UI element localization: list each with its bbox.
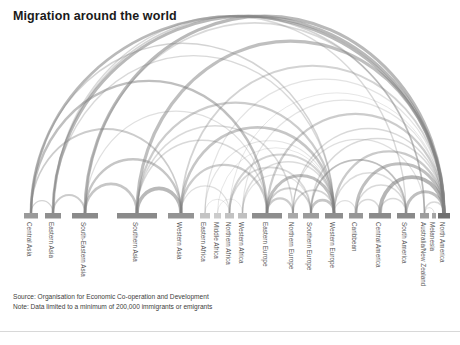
axis-label-region: Central America: [375, 222, 382, 268]
flow-arc: [53, 195, 85, 213]
axis-label-region: Australia/New Zealand: [420, 222, 427, 286]
region-node-bar[interactable]: [252, 213, 282, 219]
flow-arc: [31, 201, 53, 213]
region-node-bar[interactable]: [397, 213, 415, 219]
flow-arc: [311, 200, 334, 213]
region-node-bar[interactable]: [24, 213, 38, 219]
region-node-bar[interactable]: [349, 213, 363, 219]
flow-arc: [356, 200, 380, 213]
flow-arc: [380, 198, 406, 213]
axis-label-region: Eastern Europe: [262, 222, 269, 266]
axis-label-region: Central Asia: [26, 222, 33, 257]
region-node-bar[interactable]: [438, 213, 450, 219]
bottom-divider: [0, 331, 460, 332]
axis-label-region: Eastern Asia: [48, 222, 55, 258]
region-node-bar[interactable]: [214, 213, 221, 219]
flow-arc: [137, 188, 181, 213]
region-node-bar[interactable]: [45, 213, 61, 219]
region-node-bar[interactable]: [369, 213, 391, 219]
axis-label-region: Southern Asia: [132, 222, 139, 262]
region-node-bar[interactable]: [200, 213, 210, 219]
axis-label-region: Northern Africa: [225, 222, 232, 265]
region-node-bar[interactable]: [432, 213, 436, 219]
data-note: Note: Data limited to a minimum of 200,0…: [13, 302, 212, 312]
region-node-bar[interactable]: [238, 213, 247, 219]
footnotes: Source: Organisation for Economic Co-ope…: [13, 292, 212, 312]
axis-label-region: Western Asia: [176, 222, 183, 260]
region-node-bar[interactable]: [72, 213, 98, 219]
axis-label-region: North America: [439, 222, 446, 263]
source-note: Source: Organisation for Economic Co-ope…: [13, 292, 212, 302]
flow-arc: [85, 184, 137, 213]
axis-label-region: Middle Africa: [213, 222, 220, 259]
region-node-bar[interactable]: [168, 213, 194, 219]
axis-label-region: Northern Europe: [288, 222, 295, 269]
axis-label-region: Western Africa: [238, 222, 245, 264]
region-node-bar[interactable]: [420, 213, 429, 219]
arcs-layer: [31, 16, 444, 213]
axis-label-region: Caribbean: [351, 222, 358, 252]
region-node-bar[interactable]: [225, 213, 234, 219]
region-node-bar[interactable]: [325, 213, 343, 219]
axis-label-region: South America: [401, 222, 408, 264]
region-node-bar[interactable]: [303, 213, 319, 219]
axis-label-region: Eastern Africa: [200, 222, 207, 262]
region-node-bar[interactable]: [117, 213, 157, 219]
axis-label-region: Southern Europe: [306, 222, 313, 270]
axis-label-region: South-Eastern Asia: [80, 222, 87, 277]
nodes-layer: [24, 213, 450, 219]
axis-label-region: Melanesia: [429, 222, 436, 251]
axis-label-region: Western Europe: [329, 222, 336, 268]
migration-arc-diagram: Migration around the world Central AsiaE…: [0, 0, 460, 345]
flow-arc: [334, 201, 356, 213]
region-node-bar[interactable]: [288, 213, 298, 219]
